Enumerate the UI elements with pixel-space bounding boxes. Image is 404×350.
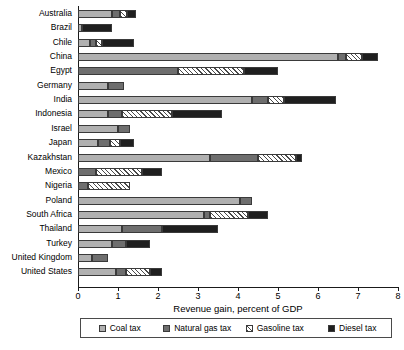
bar-segment-diesel xyxy=(120,139,134,147)
legend-label-natural-gas: Natural gas tax xyxy=(174,324,231,333)
bar-row-united-states xyxy=(0,268,404,276)
bar-segment-diesel xyxy=(162,225,218,233)
bar-row-poland xyxy=(0,197,404,205)
bar-segment-coal xyxy=(78,10,112,18)
bar-segment-gas xyxy=(98,139,110,147)
bar-segment-gas xyxy=(338,53,346,61)
x-tick-label-7: 7 xyxy=(355,292,360,301)
bar-row-thailand xyxy=(0,225,404,233)
legend-item-diesel: Diesel tax xyxy=(314,324,392,333)
bar-segment-coal xyxy=(78,154,210,162)
bar-row-australia xyxy=(0,10,404,18)
bar-segment-gasoline xyxy=(120,10,127,18)
bar-row-china xyxy=(0,53,404,61)
bar-segment-diesel xyxy=(244,67,278,75)
bar-segment-gasoline xyxy=(178,67,244,75)
bar-segment-diesel xyxy=(296,154,302,162)
x-axis-title: Revenue gain, percent of GDP xyxy=(78,303,398,314)
bar-segment-diesel xyxy=(142,168,162,176)
bar-row-kazakhstan xyxy=(0,154,404,162)
bar-segment-gas xyxy=(240,197,252,205)
bar-row-india xyxy=(0,96,404,104)
bar-segment-diesel xyxy=(126,240,150,248)
bar-segment-coal xyxy=(78,254,92,262)
bar-segment-gas xyxy=(78,182,88,190)
bar-segment-diesel xyxy=(362,53,378,61)
legend-swatch-natural-gas-icon xyxy=(163,325,170,332)
legend-item-gasoline: Gasoline tax xyxy=(236,324,314,333)
x-tick-label-0: 0 xyxy=(75,292,80,301)
bar-segment-coal xyxy=(78,240,112,248)
bar-segment-gasoline xyxy=(126,268,150,276)
bar-row-south-africa xyxy=(0,211,404,219)
bar-segment-gas xyxy=(112,10,120,18)
bar-row-chile xyxy=(0,39,404,47)
bar-row-nigeria xyxy=(0,182,404,190)
bar-segment-coal xyxy=(78,268,116,276)
bar-segment-gasoline xyxy=(268,96,284,104)
bar-segment-gas xyxy=(210,154,258,162)
x-tick-label-8: 8 xyxy=(395,292,400,301)
bar-segment-coal xyxy=(78,211,204,219)
bar-segment-gasoline xyxy=(258,154,296,162)
bar-segment-gas xyxy=(118,125,130,133)
bar-segment-gasoline xyxy=(96,168,142,176)
bar-segment-coal xyxy=(78,125,118,133)
bar-segment-gas xyxy=(78,168,96,176)
bar-segment-gas xyxy=(92,254,108,262)
x-tick-label-2: 2 xyxy=(155,292,160,301)
bar-segment-gas xyxy=(108,110,122,118)
bar-segment-coal xyxy=(78,39,90,47)
bar-segment-gas xyxy=(78,67,178,75)
bar-segment-coal xyxy=(78,110,108,118)
bar-segment-coal xyxy=(78,225,122,233)
legend-swatch-coal-icon xyxy=(99,325,106,332)
legend-label-diesel: Diesel tax xyxy=(339,324,376,333)
bar-segment-diesel xyxy=(82,24,112,32)
chart-legend: Coal tax Natural gas tax Gasoline tax Di… xyxy=(80,318,392,338)
bar-segment-coal xyxy=(78,197,240,205)
x-tick-label-4: 4 xyxy=(235,292,240,301)
bar-segment-gas xyxy=(112,240,126,248)
bar-segment-diesel xyxy=(102,39,134,47)
stacked-bar-chart: AustraliaBrazilChileChinaEgyptGermanyInd… xyxy=(0,0,404,350)
bar-segment-diesel xyxy=(248,211,268,219)
x-tick-label-6: 6 xyxy=(315,292,320,301)
bar-row-united-kingdom xyxy=(0,254,404,262)
legend-label-coal: Coal tax xyxy=(110,324,141,333)
bar-segment-gasoline xyxy=(122,110,172,118)
legend-swatch-diesel-icon xyxy=(328,325,335,332)
bar-row-mexico xyxy=(0,168,404,176)
bar-segment-coal xyxy=(78,53,338,61)
legend-item-natural-gas: Natural gas tax xyxy=(159,324,237,333)
bar-segment-gasoline xyxy=(210,211,248,219)
bar-segment-gas xyxy=(108,82,124,90)
legend-item-coal: Coal tax xyxy=(81,324,159,333)
bar-segment-gas xyxy=(122,225,162,233)
bar-segment-coal xyxy=(78,139,98,147)
bar-segment-diesel xyxy=(150,268,162,276)
bar-segment-diesel xyxy=(127,10,136,18)
bar-segment-gas xyxy=(252,96,268,104)
bar-row-israel xyxy=(0,125,404,133)
legend-swatch-gasoline-icon xyxy=(246,325,253,332)
bar-row-japan xyxy=(0,139,404,147)
bar-row-indonesia xyxy=(0,110,404,118)
legend-label-gasoline: Gasoline tax xyxy=(257,324,304,333)
bar-segment-diesel xyxy=(172,110,222,118)
bar-segment-diesel xyxy=(284,96,336,104)
bar-segment-coal xyxy=(78,82,108,90)
bar-segment-gasoline xyxy=(346,53,362,61)
x-tick-label-5: 5 xyxy=(275,292,280,301)
x-tick-label-3: 3 xyxy=(195,292,200,301)
bar-row-germany xyxy=(0,82,404,90)
bar-segment-gasoline xyxy=(110,139,120,147)
bar-row-turkey xyxy=(0,240,404,248)
bar-row-brazil xyxy=(0,24,404,32)
x-tick-label-1: 1 xyxy=(115,292,120,301)
bar-row-egypt xyxy=(0,67,404,75)
bar-segment-gas xyxy=(116,268,126,276)
bar-segment-gasoline xyxy=(88,182,130,190)
bar-segment-coal xyxy=(78,96,252,104)
